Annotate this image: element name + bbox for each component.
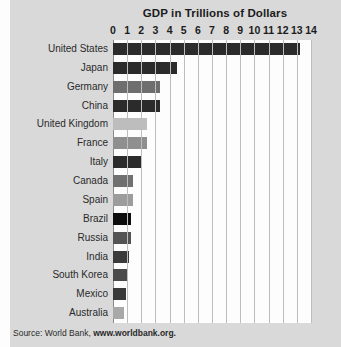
gridline-14 bbox=[311, 40, 312, 323]
category-label-australia: Australia bbox=[69, 304, 108, 323]
category-label-japan: Japan bbox=[81, 59, 108, 78]
x-tick-13: 13 bbox=[291, 24, 303, 36]
bar-australia bbox=[113, 307, 124, 319]
category-label-united-states: United States bbox=[48, 40, 108, 59]
gridline-12 bbox=[283, 40, 284, 323]
gridline-10 bbox=[254, 40, 255, 323]
x-tick-11: 11 bbox=[263, 24, 274, 36]
bar-russia bbox=[113, 232, 131, 244]
category-label-spain: Spain bbox=[82, 191, 108, 210]
x-tick-3: 3 bbox=[153, 24, 159, 36]
x-tick-5: 5 bbox=[181, 24, 187, 36]
x-tick-1: 1 bbox=[124, 24, 130, 36]
bar-china bbox=[113, 100, 160, 112]
x-tick-2: 2 bbox=[138, 24, 144, 36]
category-label-italy: Italy bbox=[90, 153, 108, 172]
category-label-south-korea: South Korea bbox=[52, 266, 108, 285]
gridline-7 bbox=[212, 40, 213, 323]
x-tick-12: 12 bbox=[277, 24, 289, 36]
source-prefix: Source: World Bank, bbox=[13, 328, 93, 338]
chart-title: GDP in Trillions of Dollars bbox=[110, 7, 320, 19]
category-label-india: India bbox=[86, 248, 108, 267]
x-tick-7: 7 bbox=[209, 24, 215, 36]
x-tick-9: 9 bbox=[237, 24, 243, 36]
gridline-3 bbox=[155, 40, 156, 323]
gridline-1 bbox=[127, 40, 128, 323]
category-label-united-kingdom: United Kingdom bbox=[37, 115, 108, 134]
gridline-9 bbox=[240, 40, 241, 323]
bar-spain bbox=[113, 194, 133, 206]
gridline-2 bbox=[141, 40, 142, 323]
x-tick-14: 14 bbox=[305, 24, 317, 36]
gridline-13 bbox=[297, 40, 298, 323]
category-label-canada: Canada bbox=[73, 172, 108, 191]
bar-canada bbox=[113, 175, 133, 187]
category-label-mexico: Mexico bbox=[76, 285, 108, 304]
x-tick-10: 10 bbox=[249, 24, 261, 36]
gridline-6 bbox=[198, 40, 199, 323]
bar-japan bbox=[113, 62, 177, 74]
plot-area bbox=[113, 40, 311, 323]
gridline-5 bbox=[184, 40, 185, 323]
source-link: www.worldbank.org. bbox=[93, 328, 176, 338]
bar-brazil bbox=[113, 213, 131, 225]
category-label-brazil: Brazil bbox=[83, 210, 108, 229]
bar-germany bbox=[113, 81, 160, 93]
x-tick-4: 4 bbox=[167, 24, 173, 36]
gridline-8 bbox=[226, 40, 227, 323]
x-axis-tick-labels: 01234567891011121314 bbox=[113, 24, 311, 38]
source-note: Source: World Bank, www.worldbank.org. bbox=[13, 328, 176, 338]
category-label-france: France bbox=[77, 134, 108, 153]
category-label-germany: Germany bbox=[67, 78, 108, 97]
category-label-china: China bbox=[82, 97, 108, 116]
gridline-11 bbox=[269, 40, 270, 323]
x-tick-6: 6 bbox=[195, 24, 201, 36]
gridline-4 bbox=[170, 40, 171, 323]
bar-south-korea bbox=[113, 269, 127, 281]
category-axis-labels: United StatesJapanGermanyChinaUnited Kin… bbox=[0, 40, 108, 323]
bar-mexico bbox=[113, 288, 126, 300]
x-tick-8: 8 bbox=[223, 24, 229, 36]
gdp-bar-chart-figure: GDP in Trillions of Dollars 012345678910… bbox=[0, 0, 341, 347]
x-tick-0: 0 bbox=[110, 24, 116, 36]
category-label-russia: Russia bbox=[77, 229, 108, 248]
